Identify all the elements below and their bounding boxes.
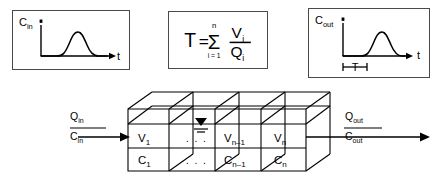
formula-numerator: V bbox=[232, 24, 243, 41]
outlet-y-axis-tick bbox=[342, 18, 345, 21]
outlet-x-axis-arrowhead bbox=[406, 53, 413, 59]
formula-svg: T = Σ n i = 1 V i Q i bbox=[169, 12, 267, 68]
inlet-y-axis-label: Cin bbox=[19, 17, 33, 31]
tank-svg: V1 C1 . . . . . . Vn–1 Cn–1 Vn Cn bbox=[0, 84, 440, 189]
cell-n-1-volume-label: Vn–1 bbox=[224, 132, 246, 147]
inflow-concentration-label: Cin bbox=[70, 131, 83, 144]
inflow-rate-label: Qin bbox=[70, 111, 84, 124]
cell-1-volume-label: V1 bbox=[138, 132, 151, 147]
cell-n-volume-label: Vn bbox=[274, 132, 286, 147]
figure-canvas: Cin t T = Σ n i = 1 V i Q i bbox=[0, 0, 440, 189]
outlet-y-axis-label: Cout bbox=[315, 15, 333, 29]
formula-sigma: Σ bbox=[208, 31, 221, 53]
cell-1-conc-label: C1 bbox=[138, 154, 151, 169]
formula-denominator-sub: i bbox=[242, 53, 244, 63]
outflow-rate-label: Qout bbox=[345, 111, 363, 124]
inlet-x-axis-label: t bbox=[117, 51, 120, 62]
cell-2-volume-ellipsis: . . . bbox=[186, 133, 207, 144]
formula-lhs: T bbox=[184, 30, 196, 51]
outlet-arrow bbox=[306, 128, 430, 141]
outlet-curve bbox=[343, 32, 405, 56]
outlet-x-axis-label: t bbox=[417, 50, 420, 61]
residence-time-formula-panel: T = Σ n i = 1 V i Q i bbox=[168, 11, 268, 69]
cell-n-conc-label: Cn bbox=[274, 154, 287, 169]
inlet-x-axis-arrowhead bbox=[109, 53, 116, 59]
water-table-icon bbox=[194, 118, 208, 132]
formula-denominator: Q bbox=[231, 43, 243, 60]
cell-2-conc-ellipsis: . . . bbox=[186, 155, 207, 166]
outlet-concentration-panel: T Cout t bbox=[308, 8, 430, 78]
tank-cell-labels: V1 C1 . . . . . . Vn–1 Cn–1 Vn Cn bbox=[138, 132, 287, 169]
delay-bracket-label: T bbox=[352, 61, 359, 73]
inlet-curve bbox=[41, 32, 107, 56]
inlet-concentration-panel: Cin t bbox=[12, 10, 130, 70]
tanks-in-series-diagram: V1 C1 . . . . . . Vn–1 Cn–1 Vn Cn Qin Ci… bbox=[0, 84, 440, 189]
formula-lower-limit: i = 1 bbox=[208, 52, 221, 59]
outflow-concentration-label: Cout bbox=[345, 131, 362, 144]
formula-upper-limit: n bbox=[212, 21, 216, 30]
inlet-y-axis-tick bbox=[40, 20, 43, 23]
